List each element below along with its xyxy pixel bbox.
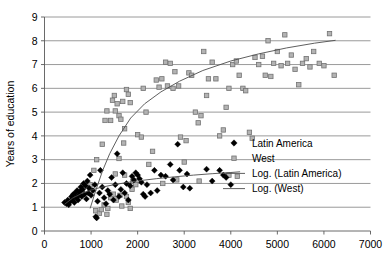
- data-point-west: [124, 87, 128, 91]
- data-point-west: [214, 77, 218, 81]
- data-point-west: [121, 141, 125, 145]
- data-point-west: [317, 61, 321, 65]
- data-point-west: [327, 31, 331, 35]
- data-point-west: [332, 73, 336, 77]
- legend-label-3: Log. (West): [252, 183, 304, 194]
- data-point-west: [283, 33, 287, 37]
- data-point-west: [141, 86, 145, 90]
- data-point-west: [300, 61, 304, 65]
- plot-canvas: 0123456789 01000200030004000500060007000…: [0, 0, 392, 262]
- y-tick-label-5: 5: [32, 106, 38, 118]
- data-point-west: [210, 60, 214, 64]
- data-point-west: [308, 65, 312, 69]
- data-point-west: [182, 160, 186, 164]
- x-tick-marks: [45, 231, 371, 235]
- data-point-latin-america: [158, 172, 164, 178]
- data-point-latin-america: [217, 167, 223, 173]
- data-point-west: [161, 181, 165, 185]
- data-point-west: [304, 56, 308, 60]
- y-tick-marks: [41, 17, 45, 231]
- data-point-west: [113, 109, 117, 113]
- data-point-west: [173, 69, 177, 73]
- data-point-west: [285, 61, 289, 65]
- data-point-west: [202, 49, 206, 53]
- data-point-latin-america: [177, 167, 183, 173]
- data-point-west: [206, 77, 210, 81]
- data-point-west: [147, 162, 151, 166]
- data-point-west: [106, 206, 110, 210]
- data-point-west: [126, 92, 130, 96]
- x-tick-label-3000: 3000: [173, 238, 197, 250]
- data-point-latin-america: [101, 195, 107, 201]
- legend-group: Latin AmericaWestLog. (Latin America)Log…: [223, 138, 342, 195]
- data-point-west: [110, 98, 114, 102]
- data-point-west: [112, 93, 116, 97]
- data-point-west: [108, 118, 112, 122]
- data-point-west: [184, 138, 188, 142]
- data-point-west: [253, 55, 257, 59]
- data-point-west: [139, 135, 143, 139]
- data-point-west: [271, 61, 275, 65]
- legend-label-1: West: [252, 153, 275, 164]
- y-tick-label-6: 6: [32, 82, 38, 94]
- x-tick-label-0: 0: [42, 238, 48, 250]
- data-point-west: [237, 73, 241, 77]
- data-point-west: [134, 182, 138, 186]
- x-tick-label-5000: 5000: [266, 238, 290, 250]
- data-point-west: [193, 110, 197, 114]
- y-tick-label-4: 4: [32, 130, 38, 142]
- data-point-latin-america: [167, 161, 173, 167]
- data-point-latin-america: [163, 173, 169, 179]
- data-point-west: [322, 64, 326, 68]
- x-tick-labels: 01000200030004000500060007000: [42, 238, 383, 250]
- data-point-latin-america: [151, 167, 157, 173]
- data-point-latin-america: [114, 151, 120, 157]
- data-point-west: [94, 157, 98, 161]
- data-point-west: [199, 113, 203, 117]
- data-point-west: [103, 118, 107, 122]
- data-point-west: [263, 73, 267, 77]
- data-point-west: [197, 179, 201, 183]
- data-point-west: [311, 49, 315, 53]
- data-point-latin-america: [148, 190, 154, 196]
- data-point-west: [119, 117, 123, 121]
- legend-marker-latin-america: [231, 140, 237, 146]
- y-tick-label-8: 8: [32, 35, 38, 47]
- x-tick-label-2000: 2000: [126, 238, 150, 250]
- data-point-west: [128, 206, 132, 210]
- series-latin-america-points: [62, 141, 234, 221]
- data-point-latin-america: [204, 166, 210, 172]
- data-point-west: [92, 168, 96, 172]
- data-point-west: [168, 61, 172, 65]
- data-point-latin-america: [228, 182, 234, 188]
- data-point-west: [247, 130, 251, 134]
- data-point-west: [160, 77, 164, 81]
- data-point-west: [105, 212, 109, 216]
- data-point-west: [115, 102, 119, 106]
- x-tick-label-7000: 7000: [359, 238, 383, 250]
- data-point-west: [217, 134, 221, 138]
- x-tick-label-1000: 1000: [79, 238, 103, 250]
- data-point-latin-america: [187, 185, 193, 191]
- legend-label-2: Log. (Latin America): [252, 168, 342, 179]
- data-point-west: [163, 60, 167, 64]
- legend-label-0: Latin America: [252, 138, 313, 149]
- y-tick-label-1: 1: [32, 201, 38, 213]
- data-point-west: [150, 149, 154, 153]
- data-point-west: [105, 109, 109, 113]
- y-tick-labels: 0123456789: [32, 11, 38, 237]
- data-point-latin-america: [154, 188, 160, 194]
- data-point-west: [121, 99, 125, 103]
- data-point-west: [289, 53, 293, 57]
- data-point-west: [196, 121, 200, 125]
- y-tick-label-7: 7: [32, 58, 38, 70]
- data-point-west: [99, 207, 103, 211]
- data-point-west: [257, 62, 261, 66]
- data-point-west: [157, 85, 161, 89]
- data-point-latin-america: [144, 182, 150, 188]
- data-point-latin-america: [95, 198, 101, 204]
- data-point-west: [221, 128, 225, 132]
- y-tick-label-0: 0: [32, 225, 38, 237]
- y-tick-label-3: 3: [32, 153, 38, 165]
- data-point-latin-america: [175, 141, 181, 147]
